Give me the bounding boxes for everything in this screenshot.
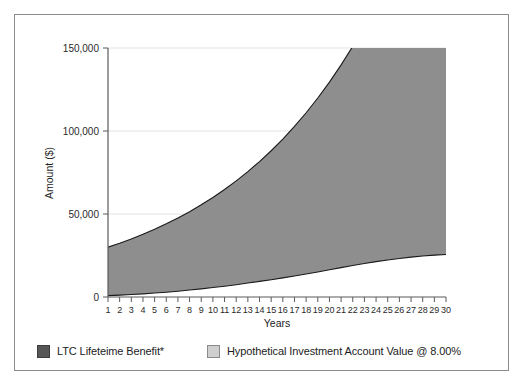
x-tick-label: 25 [383, 305, 393, 315]
x-tick-label: 16 [278, 305, 288, 315]
x-tick-label: 21 [336, 305, 346, 315]
x-tick-label: 17 [289, 305, 299, 315]
x-axis-ticks: 1234567891011121314151617181920212223242… [105, 297, 451, 315]
legend-swatch-ltc [37, 345, 50, 358]
x-axis-title: Years [264, 317, 290, 329]
x-tick-label: 12 [231, 305, 241, 315]
x-tick-label: 18 [301, 305, 311, 315]
x-tick-label: 28 [418, 305, 428, 315]
y-tick-label: 50,000 [68, 209, 99, 220]
y-tick-label: 0 [93, 292, 99, 303]
legend-entry-ltc[interactable]: LTC Lifeteime Benefit* [37, 345, 207, 358]
x-tick-label: 10 [208, 305, 218, 315]
x-tick-label: 5 [152, 305, 157, 315]
x-tick-label: 26 [394, 305, 404, 315]
y-axis-title: Amount ($) [43, 147, 55, 199]
x-tick-label: 3 [129, 305, 134, 315]
x-tick-label: 13 [243, 305, 253, 315]
x-tick-label: 6 [164, 305, 169, 315]
x-tick-label: 8 [187, 305, 192, 315]
x-tick-label: 27 [406, 305, 416, 315]
legend-entry-investment[interactable]: Hypothetical Investment Account Value @ … [207, 345, 461, 358]
y-axis-ticks: 050,000100,000150,000 [63, 43, 108, 303]
y-tick-label: 100,000 [63, 126, 100, 137]
legend-swatch-investment [207, 345, 220, 358]
x-tick-label: 20 [324, 305, 334, 315]
area-band [108, 0, 446, 296]
chart-figure: 050,000100,000150,000 123456789101112131… [0, 0, 525, 387]
x-tick-label: 30 [441, 305, 451, 315]
legend-label-ltc: LTC Lifeteime Benefit* [57, 345, 164, 357]
x-tick-label: 23 [359, 305, 369, 315]
x-tick-label: 9 [199, 305, 204, 315]
x-tick-label: 19 [313, 305, 323, 315]
chart-plot-area: 050,000100,000150,000 123456789101112131… [0, 0, 525, 387]
x-tick-label: 1 [105, 305, 110, 315]
x-tick-label: 7 [175, 305, 180, 315]
chart-legend: LTC Lifeteime Benefit* Hypothetical Inve… [22, 336, 492, 366]
x-tick-label: 29 [429, 305, 439, 315]
x-tick-label: 24 [371, 305, 381, 315]
x-tick-label: 2 [117, 305, 122, 315]
y-tick-label: 150,000 [63, 43, 100, 54]
x-tick-label: 22 [348, 305, 358, 315]
legend-label-investment: Hypothetical Investment Account Value @ … [227, 345, 461, 357]
x-tick-label: 4 [140, 305, 145, 315]
x-tick-label: 11 [220, 305, 229, 315]
x-tick-label: 15 [266, 305, 276, 315]
x-tick-label: 14 [255, 305, 265, 315]
